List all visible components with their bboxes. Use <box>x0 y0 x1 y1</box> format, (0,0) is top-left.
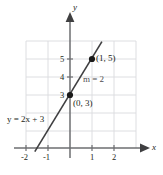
graph-figure: y x -2 -1 1 2 3 4 5 (1, 5) (0, 3) m = 2 … <box>0 0 163 175</box>
x-tick-label-neg1: -1 <box>43 153 50 162</box>
y-tick-label-3: 3 <box>60 91 64 100</box>
y-tick-label-5: 5 <box>60 55 64 64</box>
equation-annotation: y = 2x + 3 <box>7 115 44 124</box>
y-tick-label-4: 4 <box>60 73 64 82</box>
x-tick-label-neg2: -2 <box>21 153 28 162</box>
point-label-0-3: (0, 3) <box>73 99 93 108</box>
grid-lines-vertical <box>26 41 136 148</box>
point-label-1-5: (1, 5) <box>96 54 116 63</box>
x-tick-label-1: 1 <box>90 153 94 162</box>
x-axis-arrowhead <box>140 144 150 153</box>
data-point-second <box>89 56 95 62</box>
x-tick-label-2: 2 <box>112 153 116 162</box>
coordinate-plane <box>0 0 163 175</box>
slope-annotation: m = 2 <box>83 75 104 84</box>
y-axis-arrowhead <box>66 12 75 22</box>
x-axis-label: x <box>152 143 156 152</box>
y-axis-label: y <box>73 3 77 12</box>
